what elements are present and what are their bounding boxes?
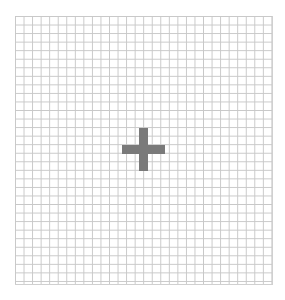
plus-icon-horizontal-bar (122, 145, 165, 154)
